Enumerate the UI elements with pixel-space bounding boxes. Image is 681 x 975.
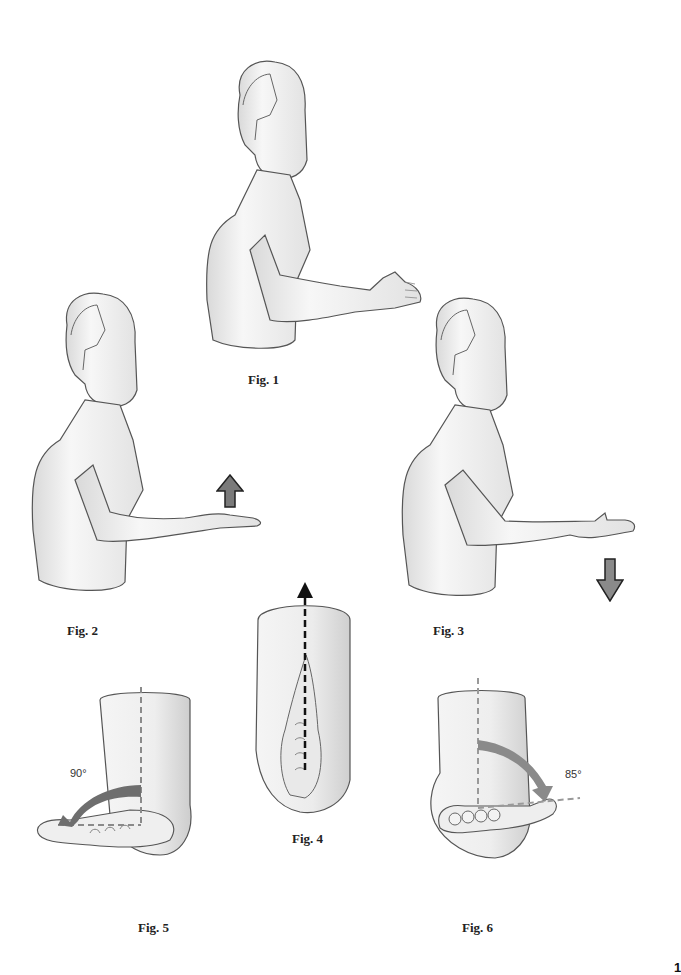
angle-label-90: 90° [70, 767, 87, 779]
forearm-rotation-85-illustration: 85° [420, 678, 620, 863]
arrow-down-icon [596, 558, 624, 602]
arrow-up-icon [216, 474, 244, 508]
page-number: 1 [674, 960, 681, 975]
forearm-rotation-90-illustration: 90° [30, 685, 205, 860]
figure-2 [25, 290, 275, 620]
forearm-end-view-illustration [250, 580, 360, 820]
figure-4 [250, 580, 360, 820]
torso-palm-down-illustration [25, 290, 275, 620]
figure-6-caption: Fig. 6 [462, 920, 493, 936]
figure-5: 90° [30, 685, 205, 860]
angle-label-85: 85° [565, 768, 582, 780]
figure-6: 85° [420, 678, 620, 863]
figure-2-caption: Fig. 2 [67, 623, 98, 639]
figure-5-caption: Fig. 5 [138, 920, 169, 936]
figure-4-caption: Fig. 4 [292, 831, 323, 847]
figure-3-caption: Fig. 3 [433, 623, 464, 639]
